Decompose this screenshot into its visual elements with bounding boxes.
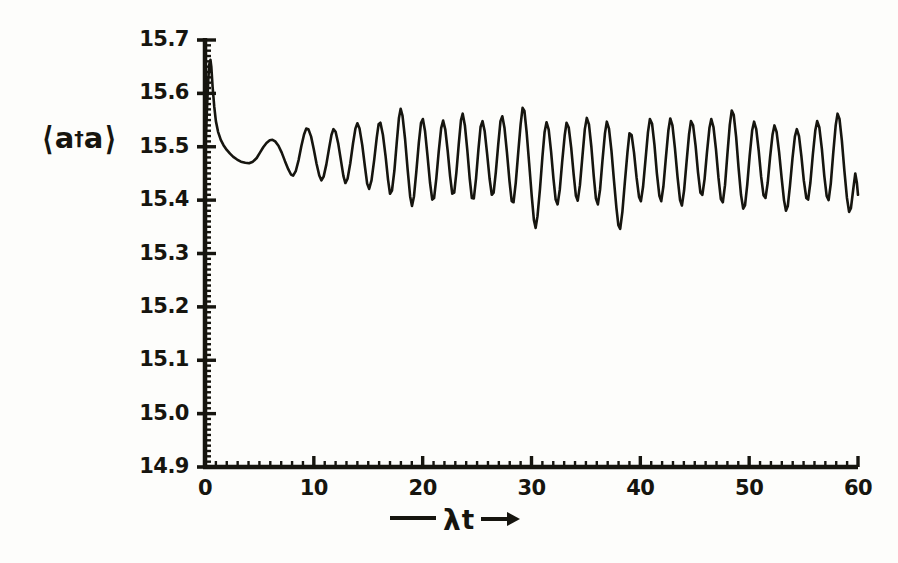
operator-a-dagger: a	[55, 121, 75, 155]
y-tick-label: 15.1	[105, 347, 189, 371]
lambda-glyph: λ	[443, 504, 461, 537]
x-tick-label: 20	[393, 476, 453, 500]
y-tick-label: 15.7	[105, 27, 189, 51]
arrow-right-icon	[481, 514, 521, 524]
operator-a: a	[84, 121, 104, 155]
bra-glyph: ⟨	[41, 119, 53, 158]
y-tick-label: 15.2	[105, 294, 189, 318]
y-tick-label: 15.4	[105, 187, 189, 211]
y-tick-label: 14.9	[105, 454, 189, 478]
x-axis-label: λt	[390, 500, 630, 540]
x-tick-label: 0	[175, 476, 235, 500]
y-tick-label: 15.5	[105, 134, 189, 158]
data-line	[205, 60, 858, 229]
data-series-group	[205, 60, 858, 229]
y-tick-label: 15.3	[105, 241, 189, 265]
x-tick-label: 40	[610, 476, 670, 500]
x-tick-label: 60	[828, 476, 888, 500]
figure-panel: ⟨a†a⟩ λt 14.915.015.115.215.315.415.515.…	[0, 0, 898, 563]
dagger-glyph: †	[74, 127, 84, 149]
x-tick-label: 50	[719, 476, 779, 500]
x-tick-label: 10	[284, 476, 344, 500]
y-tick-label: 15.6	[105, 80, 189, 104]
x-label-dash	[390, 516, 436, 520]
y-tick-label: 15.0	[105, 401, 189, 425]
time-glyph: t	[462, 505, 474, 535]
axis-group	[197, 38, 858, 467]
x-tick-label: 30	[502, 476, 562, 500]
